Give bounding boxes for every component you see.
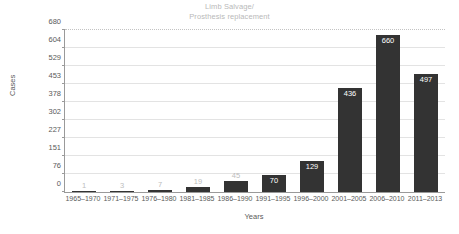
bar-value-label: 3 (120, 182, 124, 190)
bar-value-label: 436 (344, 90, 357, 98)
x-axis-tick-labels: 1965–19701971–19751976–19801981–19851986… (64, 194, 444, 203)
x-axis-tick-label: 1996–2000 (292, 194, 330, 203)
y-axis-tick-label: 378 (7, 90, 61, 98)
y-axis-tick-label: 151 (7, 144, 61, 152)
bar[interactable]: 497 (414, 74, 438, 192)
bar-slot: 3 (103, 30, 141, 192)
chart-title: Limb Salvage/ (0, 2, 459, 12)
bar[interactable]: 3 (110, 191, 134, 192)
bar-slot: 129 (293, 30, 331, 192)
bar-value-label: 129 (306, 163, 319, 171)
chart-subtitle: Prosthesis replacement (0, 12, 459, 22)
bar[interactable]: 660 (376, 35, 400, 192)
bar[interactable]: 436 (338, 88, 362, 192)
x-axis-label: Years (64, 212, 444, 221)
x-axis-tick-label: 1991–1995 (254, 194, 292, 203)
bar-slot: 70 (255, 30, 293, 192)
x-axis-tick-label: 2006–2010 (368, 194, 406, 203)
y-axis-tick-label: 76 (7, 162, 61, 170)
bar-value-label: 19 (194, 178, 202, 186)
x-axis-tick-label: 1971–1975 (102, 194, 140, 203)
bar[interactable]: 129 (300, 161, 324, 192)
bar-slot: 497 (407, 30, 445, 192)
bar[interactable]: 45 (224, 181, 248, 192)
bar-series: 137194570129436660497 (65, 30, 445, 192)
bar[interactable]: 1 (72, 191, 96, 192)
bar-value-label: 70 (270, 177, 278, 185)
bar-slot: 436 (331, 30, 369, 192)
bar-value-label: 1 (82, 182, 86, 190)
bar[interactable]: 7 (148, 190, 172, 192)
plot-area: 076151227302378453529604680 137194570129… (64, 30, 445, 193)
y-axis-tick-label: 227 (7, 126, 61, 134)
bar[interactable]: 70 (262, 175, 286, 192)
bar-slot: 19 (179, 30, 217, 192)
x-axis-tick-label: 1976–1980 (140, 194, 178, 203)
y-axis-tick-label: 453 (7, 72, 61, 80)
x-axis-tick-label: 1986–1990 (216, 194, 254, 203)
y-axis-tick-label: 529 (7, 54, 61, 62)
y-axis-tick-label: 302 (7, 108, 61, 116)
bar-chart-figure: Limb Salvage/ Prosthesis replacement Cas… (0, 0, 459, 234)
bar-value-label: 660 (382, 37, 395, 45)
bar-slot: 45 (217, 30, 255, 192)
y-axis-tick-label: 0 (7, 180, 61, 188)
y-axis-tick-label: 604 (7, 36, 61, 44)
x-axis-tick-label: 1965–1970 (64, 194, 102, 203)
bar-slot: 1 (65, 30, 103, 192)
bar-value-label: 7 (158, 181, 162, 189)
bar[interactable]: 19 (186, 187, 210, 192)
x-axis-tick-label: 1981–1985 (178, 194, 216, 203)
x-axis-tick-label: 2011–2013 (406, 194, 444, 203)
bar-value-label: 45 (232, 172, 240, 180)
chart-title-block: Limb Salvage/ Prosthesis replacement (0, 2, 459, 21)
x-axis-tick-label: 2001–2005 (330, 194, 368, 203)
bar-slot: 7 (141, 30, 179, 192)
bar-value-label: 497 (420, 76, 433, 84)
y-axis-tick-label: 680 (7, 18, 61, 26)
bar-slot: 660 (369, 30, 407, 192)
